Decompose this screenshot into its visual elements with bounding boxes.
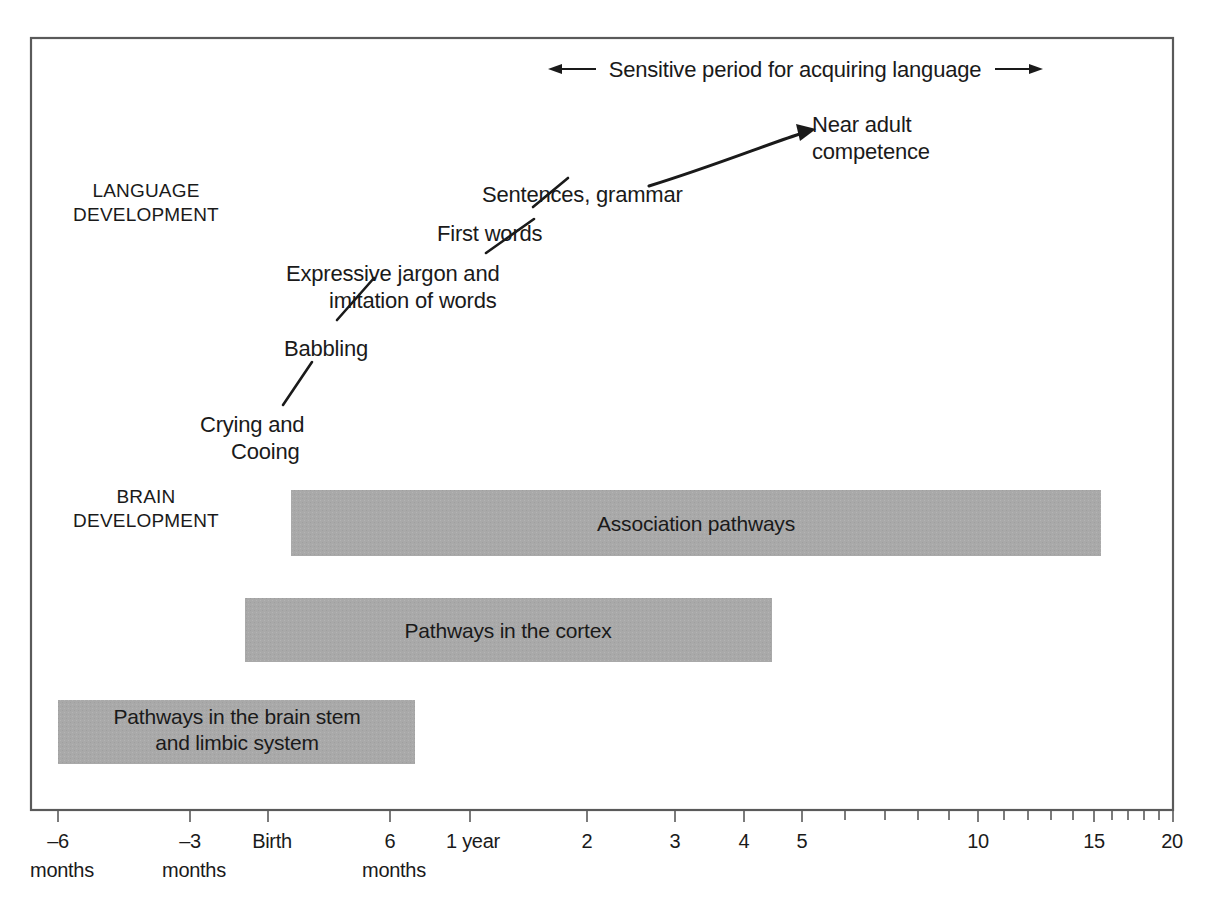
milestone-sentences-grammar: Sentences, grammar — [482, 182, 683, 207]
bar-pathways-brain-stem-label: Pathways in the brain stem — [114, 705, 361, 728]
milestone-crying-cooing-line2: Cooing — [231, 439, 300, 464]
tick-sublabel-minus-6: months — [30, 859, 94, 881]
milestone-expressive-jargon-line1: Expressive jargon and — [286, 261, 499, 286]
milestone-first-words-line1: First words — [437, 221, 543, 246]
x-axis: –6 –3 Birth 6 1 year 2 3 4 5 10 15 20 mo… — [30, 810, 1183, 881]
figure-root: Sensitive period for acquiring language … — [0, 0, 1214, 903]
milestone-expressive-jargon-line2: imitation of words — [329, 288, 497, 313]
section-label-language: LANGUAGE DEVELOPMENT — [73, 180, 219, 225]
near-adult-competence-arrow — [649, 124, 816, 186]
tick-sublabel-minus-3: months — [162, 859, 226, 881]
connector-crying-to-babbling — [283, 362, 312, 405]
bar-pathways-brain-stem: Pathways in the brain stem and limbic sy… — [58, 700, 415, 764]
section-label-brain-line1: BRAIN — [116, 486, 175, 507]
bar-association-pathways: Association pathways — [291, 490, 1101, 556]
tick-label-1-year: 1 year — [446, 830, 500, 852]
milestone-crying-cooing-line1: Crying and — [200, 412, 304, 437]
section-label-language-line2: DEVELOPMENT — [73, 204, 219, 225]
tick-label-birth: Birth — [252, 830, 292, 852]
sensitive-period-label: Sensitive period for acquiring language — [609, 57, 982, 82]
milestone-near-adult-competence-line2: competence — [812, 139, 930, 164]
tick-label-minus-6: –6 — [47, 830, 69, 852]
arrow-left-icon — [548, 64, 562, 74]
tick-label-6-months: 6 — [385, 830, 396, 852]
sensitive-period-annotation: Sensitive period for acquiring language — [548, 57, 1043, 82]
section-label-brain-line2: DEVELOPMENT — [73, 510, 219, 531]
tick-label-3: 3 — [670, 830, 681, 852]
milestone-babbling: Babbling — [284, 336, 368, 361]
timeline-figure: Sensitive period for acquiring language … — [0, 0, 1214, 903]
milestone-babbling-line1: Babbling — [284, 336, 368, 361]
tick-label-5: 5 — [797, 830, 808, 852]
tick-label-20: 20 — [1161, 830, 1183, 852]
milestone-near-adult-competence-line1: Near adult — [812, 112, 912, 137]
milestone-near-adult-competence: Near adult competence — [812, 112, 930, 164]
milestone-expressive-jargon: Expressive jargon and imitation of words — [286, 261, 499, 313]
bar-pathways-cortex: Pathways in the cortex — [245, 598, 772, 662]
curve-arrow-shaft — [649, 133, 803, 186]
tick-label-2: 2 — [582, 830, 593, 852]
milestone-crying-cooing: Crying and Cooing — [200, 412, 304, 464]
tick-label-10: 10 — [967, 830, 989, 852]
tick-sublabel-6-months: months — [362, 859, 426, 881]
tick-label-minus-3: –3 — [179, 830, 201, 852]
milestone-sentences-grammar-line1: Sentences, grammar — [482, 182, 683, 207]
tick-label-15: 15 — [1083, 830, 1105, 852]
tick-label-4: 4 — [739, 830, 750, 852]
bar-pathways-cortex-label: Pathways in the cortex — [405, 619, 613, 642]
bar-pathways-brain-stem-label2: and limbic system — [155, 731, 318, 754]
section-label-language-line1: LANGUAGE — [92, 180, 199, 201]
section-label-brain: BRAIN DEVELOPMENT — [73, 486, 219, 531]
bar-association-pathways-label: Association pathways — [597, 512, 795, 535]
milestone-first-words: First words — [437, 221, 543, 246]
arrow-right-icon — [1029, 64, 1043, 74]
